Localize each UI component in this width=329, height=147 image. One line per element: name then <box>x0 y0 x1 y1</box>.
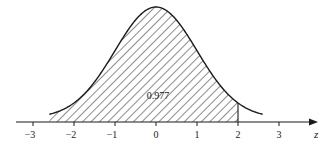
axis-arrow-icon <box>309 119 318 126</box>
x-axis-ticks: −3−2−10123 <box>25 122 282 140</box>
shaded-area-left-of-2 <box>49 7 238 122</box>
x-tick-label: 0 <box>154 129 159 140</box>
x-tick-label: −1 <box>107 129 118 140</box>
x-tick-label: 3 <box>277 129 282 140</box>
area-value-label: 0.977 <box>147 90 170 101</box>
normal-distribution-chart: −3−2−10123 z 0.977 <box>0 0 329 147</box>
x-axis-label: z <box>313 128 319 140</box>
x-tick-label: −2 <box>66 129 77 140</box>
x-tick-label: −3 <box>25 129 36 140</box>
x-tick-label: 1 <box>195 129 200 140</box>
x-tick-label: 2 <box>236 129 241 140</box>
